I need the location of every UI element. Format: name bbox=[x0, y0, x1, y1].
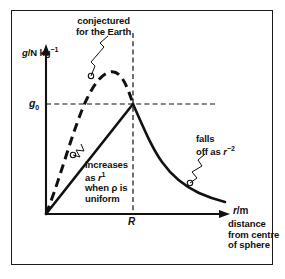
x-axis-caption-line-3: of sphere bbox=[228, 239, 270, 250]
increases-line-3: when ρ is bbox=[85, 182, 127, 193]
y-axis-tick-label-g0: g0 bbox=[29, 98, 39, 112]
x-axis-caption-line-2: from centre bbox=[228, 229, 279, 240]
y-axis-label: g/N kg−1 bbox=[22, 46, 58, 59]
conjectured-callout-leader bbox=[91, 36, 108, 76]
falls-line-2-prefix: off as bbox=[196, 146, 223, 157]
increases-line-2-exponent: 1 bbox=[102, 171, 106, 178]
falls-line-2-exponent: −2 bbox=[227, 145, 235, 152]
x-axis-arrowhead bbox=[219, 210, 230, 218]
y-axis-label-exponent: −1 bbox=[50, 46, 58, 53]
falls-callout-leader bbox=[190, 154, 205, 183]
falls-annotation-text: fallsoff as r−2 bbox=[196, 134, 235, 157]
x-axis-caption-line-1: distance bbox=[228, 218, 266, 229]
conjectured-line-2: for the Earth bbox=[76, 26, 131, 37]
falls-line-1: falls bbox=[196, 133, 215, 144]
increases-annotation-text: increasesas r1when ρ isuniform bbox=[85, 160, 128, 205]
x-axis-label-unit: /m bbox=[237, 205, 248, 216]
conjectured-line-1: conjectured bbox=[77, 15, 130, 26]
conjectured-annotation-text: conjecturedfor the Earth bbox=[76, 16, 131, 37]
increases-line-1: increases bbox=[85, 159, 128, 170]
figure-root: g/N kg−1 g0 R r/m conjecturedfor the Ear… bbox=[0, 0, 285, 279]
increases-line-2-prefix: as bbox=[85, 172, 98, 183]
x-axis-tick-label-R: R bbox=[128, 216, 135, 227]
y-axis-label-unit: /N kg bbox=[28, 47, 51, 58]
g0-subscript: 0 bbox=[35, 104, 39, 111]
x-axis-caption: distancefrom centreof sphere bbox=[228, 219, 279, 251]
x-axis-label: r/m bbox=[233, 205, 248, 216]
increases-line-4: uniform bbox=[85, 193, 120, 204]
increases-callout-leader bbox=[73, 144, 84, 157]
